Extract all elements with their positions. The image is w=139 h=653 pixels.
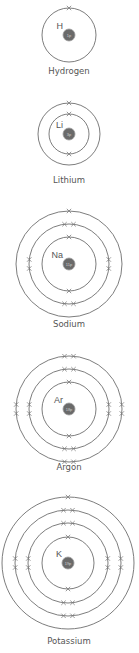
- nucleus-label: 18p: [66, 407, 73, 412]
- electron-shell-diagram: 1pHHydrogen3pLiLithium11pNaSodium18pArAr…: [0, 0, 139, 653]
- atom-potassium: 19pKPotassium: [2, 495, 134, 646]
- nucleus-label: 11p: [66, 262, 73, 267]
- element-name: Lithium: [53, 175, 85, 185]
- element-symbol: Na: [51, 250, 63, 260]
- atom-lithium: 3pLiLithium: [38, 101, 100, 185]
- atom-sodium: 11pNaSodium: [16, 209, 122, 329]
- atom-argon: 18pArArgon: [14, 354, 124, 472]
- nucleus-label: 19p: [65, 561, 72, 566]
- element-name: Sodium: [53, 319, 85, 329]
- element-name: Hydrogen: [48, 66, 89, 76]
- element-symbol: H: [57, 21, 64, 31]
- element-name: Potassium: [47, 636, 90, 646]
- element-symbol: K: [56, 549, 62, 559]
- element-name: Argon: [56, 462, 81, 472]
- nucleus-label: 1p: [67, 33, 72, 38]
- element-symbol: Ar: [54, 395, 63, 405]
- element-symbol: Li: [56, 120, 63, 130]
- nucleus-label: 3p: [67, 132, 72, 137]
- atom-hydrogen: 1pHHydrogen: [42, 6, 96, 76]
